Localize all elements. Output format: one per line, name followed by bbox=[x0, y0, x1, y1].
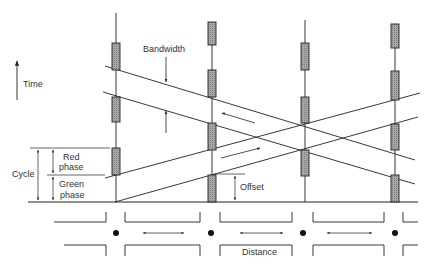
bandwidth-label: Bandwidth bbox=[143, 44, 185, 54]
red-phase-label-1: Red bbox=[63, 152, 80, 162]
westbound-direction-arrow-icon bbox=[222, 113, 255, 123]
red-phase-label-2: phase bbox=[59, 162, 84, 172]
distance-label: Distance bbox=[242, 247, 277, 257]
intersection-dot-3 bbox=[300, 230, 306, 236]
intersection-dot-4 bbox=[392, 230, 398, 236]
intersection-dot-2 bbox=[208, 230, 214, 236]
time-axis: Time bbox=[17, 61, 43, 100]
cycle-annotation: Cycle Red phase Green phase bbox=[12, 148, 110, 200]
eastbound-direction-arrow-icon bbox=[221, 148, 260, 158]
intersection-dot-1 bbox=[113, 230, 119, 236]
time-space-diagram: Time Bandwidth bbox=[0, 0, 433, 266]
street-plan bbox=[54, 212, 418, 256]
intersection-timelines bbox=[116, 13, 395, 202]
cycle-label: Cycle bbox=[12, 169, 35, 179]
offset-annotation: Offset bbox=[214, 174, 264, 200]
time-label: Time bbox=[23, 79, 43, 89]
offset-label: Offset bbox=[240, 182, 264, 192]
green-phase-label-1: Green bbox=[59, 179, 84, 189]
figure-caption-cropped bbox=[0, 262, 433, 266]
green-phase-label-2: phase bbox=[60, 190, 85, 200]
